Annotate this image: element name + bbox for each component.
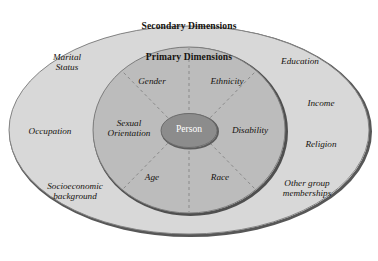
diversity-wheel-diagram: Secondary Dimensions Marital Status Educ… [0, 0, 378, 261]
wheel-graphic [0, 0, 378, 261]
center-ellipse-person [161, 114, 217, 148]
